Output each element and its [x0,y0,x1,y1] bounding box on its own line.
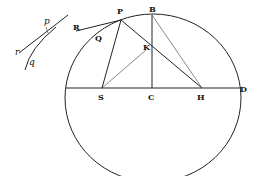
label-H: H [197,92,205,102]
label-r: r [15,47,20,57]
line-SP [102,20,121,88]
label-q: q [29,57,35,67]
label-P: P [117,6,123,16]
line-BH [152,15,202,88]
line-SK [102,50,146,88]
label-p: p [44,16,50,26]
label-S: S [98,92,104,102]
label-R: R [73,22,80,32]
label-K: K [143,42,151,52]
label-D: D [240,84,247,94]
label-Q: Q [95,33,102,43]
line-PH [121,20,202,88]
label-B: B [149,4,156,14]
tangent-line [76,20,121,31]
label-C: C [148,92,154,102]
ellipse-diagram: P B K S C H D R Q p q r [0,0,262,176]
